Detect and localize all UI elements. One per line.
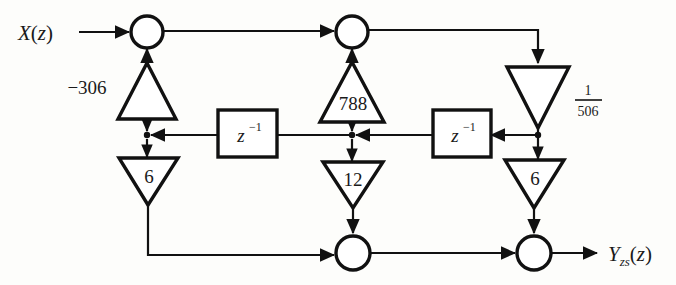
delay-block-left-label: z (236, 125, 245, 146)
gain-one-over-506[interactable] (507, 67, 569, 128)
output-label-var: z (636, 242, 645, 266)
junction-dot-left (144, 132, 150, 138)
top-middle-adder[interactable] (336, 16, 368, 48)
input-label-var: z (37, 21, 46, 45)
gain-12-label: 12 (344, 169, 363, 190)
junction-dot-middle (349, 132, 355, 138)
diagram-canvas: −306 788 1 506 6 12 6 z −1 z −1 X(z) Yzs… (0, 0, 676, 285)
wire-adder2-to-gain506 (368, 30, 538, 63)
input-label-paren-open: ( (31, 21, 38, 45)
input-label-paren-close: ) (46, 21, 53, 45)
delay-block-left[interactable] (218, 110, 277, 157)
gain-6-left-label: 6 (144, 166, 154, 187)
signal-flow-diagram: −306 788 1 506 6 12 6 z −1 z −1 X(z) Yzs… (0, 0, 676, 285)
gain-minus-306-label: −306 (67, 77, 106, 98)
gain-one-over-506-numerator: 1 (585, 83, 592, 98)
output-label-sub: zs (619, 254, 630, 269)
delay-block-right-label: z (450, 125, 459, 146)
bottom-middle-adder[interactable] (336, 236, 370, 270)
top-left-adder[interactable] (131, 16, 163, 48)
delay-block-left-exponent: −1 (249, 120, 262, 134)
wire-gain6l-to-adder3 (148, 205, 334, 255)
junction-dot-right (535, 132, 541, 138)
input-label: X(z) (17, 21, 53, 45)
bottom-right-adder[interactable] (517, 236, 551, 270)
gain-one-over-506-denominator: 506 (578, 104, 599, 119)
delay-block-right[interactable] (433, 110, 491, 157)
output-label: Yzs(z) (608, 242, 652, 269)
output-label-paren-open: ( (630, 242, 637, 266)
input-label-main: X (17, 21, 32, 45)
delay-block-right-exponent: −1 (463, 120, 476, 134)
gain-6-right-label: 6 (530, 168, 540, 189)
gain-minus-306[interactable] (118, 63, 176, 119)
output-label-paren-close: ) (645, 242, 652, 266)
gain-788-label: 788 (339, 93, 368, 114)
